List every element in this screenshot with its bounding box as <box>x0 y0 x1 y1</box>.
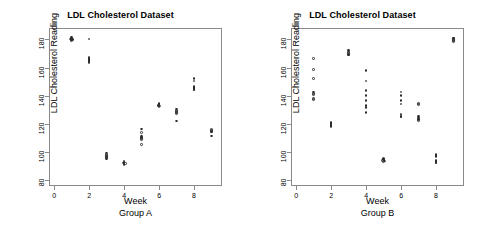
data-point <box>193 89 196 92</box>
y-tick-label: 120 <box>280 122 287 152</box>
data-point <box>88 62 91 65</box>
data-point <box>365 89 368 92</box>
data-point <box>140 143 143 146</box>
x-axis-title-group-b: Week <box>291 196 464 206</box>
data-point <box>365 94 368 97</box>
y-tick-label: 100 <box>38 151 45 181</box>
y-tick-mark <box>287 152 291 153</box>
data-point <box>312 57 315 60</box>
data-point <box>312 77 315 80</box>
data-point <box>105 158 108 161</box>
x-tick-mark <box>54 186 55 190</box>
x-tick-mark <box>366 186 367 190</box>
data-point <box>435 155 438 158</box>
x-tick-mark <box>89 186 90 190</box>
y-tick-label: 160 <box>38 66 45 96</box>
data-point <box>210 135 213 138</box>
x-tick-mark <box>401 186 402 190</box>
data-point <box>88 38 91 41</box>
y-tick-label: 140 <box>280 94 287 124</box>
y-tick-mark <box>45 124 49 125</box>
x-tick-mark <box>124 186 125 190</box>
plot-area-group-a: 8010012014016018002468 <box>49 28 222 186</box>
data-point <box>400 116 403 119</box>
y-tick-label: 180 <box>280 38 287 68</box>
data-point <box>365 80 368 83</box>
x-tick-mark <box>194 186 195 190</box>
data-point <box>365 111 368 114</box>
y-tick-label: 100 <box>280 151 287 181</box>
y-axis-title-group-a: LDL Cholesterol Reading <box>49 3 59 123</box>
data-point <box>210 131 213 134</box>
data-point <box>382 160 385 163</box>
data-point <box>435 162 438 165</box>
data-point <box>365 106 368 109</box>
y-tick-label: 80 <box>38 179 45 209</box>
data-point <box>70 39 73 42</box>
x-tick-mark <box>436 186 437 190</box>
y-tick-label: 140 <box>38 94 45 124</box>
data-point <box>417 119 420 122</box>
y-tick-mark <box>287 124 291 125</box>
y-tick-label: 180 <box>38 38 45 68</box>
data-point <box>175 112 178 115</box>
chart-panel-group-b: LDL Cholesterol Dataset 8010012014016018… <box>242 0 483 231</box>
y-tick-label: 120 <box>38 122 45 152</box>
plot-area-group-b: 8010012014016018002468 <box>291 28 464 186</box>
data-point <box>400 91 403 94</box>
data-point <box>312 93 315 96</box>
data-point <box>365 69 368 72</box>
data-point <box>140 138 143 141</box>
group-label-group-b: Group B <box>291 208 464 218</box>
data-point <box>365 99 368 102</box>
chart-title-group-a: LDL Cholesterol Dataset <box>0 10 241 20</box>
x-axis-title-group-a: Week <box>49 196 222 206</box>
data-point <box>140 128 143 131</box>
data-point <box>193 80 196 83</box>
y-tick-mark <box>45 152 49 153</box>
data-point <box>140 131 143 134</box>
data-point <box>400 99 403 102</box>
data-point <box>417 103 420 106</box>
x-tick-mark <box>159 186 160 190</box>
y-axis-title-group-b: LDL Cholesterol Reading <box>291 3 301 123</box>
data-point <box>312 98 315 101</box>
group-label-group-a: Group A <box>49 208 222 218</box>
chart-title-group-b: LDL Cholesterol Dataset <box>242 10 483 20</box>
y-tick-mark <box>287 180 291 181</box>
screenshot-root: LDL Cholesterol Dataset 8010012014016018… <box>0 0 483 231</box>
x-tick-mark <box>331 186 332 190</box>
data-point <box>347 54 350 57</box>
y-tick-label: 80 <box>280 179 287 209</box>
data-point <box>158 105 161 108</box>
data-point <box>452 40 455 43</box>
data-point <box>175 120 178 123</box>
y-tick-mark <box>45 180 49 181</box>
x-tick-mark <box>296 186 297 190</box>
y-tick-label: 160 <box>280 66 287 96</box>
data-point <box>330 125 333 128</box>
data-point <box>400 103 403 106</box>
data-point <box>312 68 315 71</box>
data-point <box>400 94 403 97</box>
chart-panel-group-a: LDL Cholesterol Dataset 8010012014016018… <box>0 0 241 231</box>
